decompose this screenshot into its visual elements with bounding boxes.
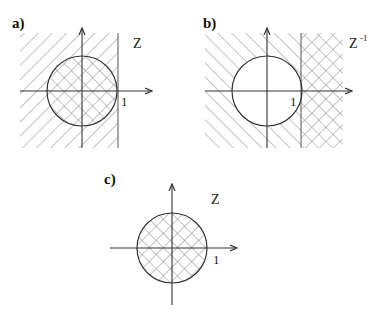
unit-label: 1 bbox=[213, 252, 220, 267]
variable-label: Z bbox=[349, 36, 358, 51]
panel-a-label: a) bbox=[12, 15, 25, 32]
unit-label: 1 bbox=[290, 94, 297, 109]
variable-label: Z bbox=[211, 192, 220, 207]
panel-a: a) Z 1 bbox=[12, 15, 152, 148]
panel-b-label: b) bbox=[203, 15, 216, 32]
variable-exponent: -1 bbox=[360, 33, 368, 43]
variable-label: Z bbox=[133, 36, 142, 51]
panel-c-label: c) bbox=[104, 171, 116, 188]
panel-c: c) Z 1 bbox=[104, 171, 237, 305]
figure-canvas: a) Z 1 b) Z -1 1 c) Z 1 bbox=[0, 0, 383, 319]
panel-b: b) Z -1 1 bbox=[203, 15, 368, 148]
unit-label: 1 bbox=[121, 94, 128, 109]
